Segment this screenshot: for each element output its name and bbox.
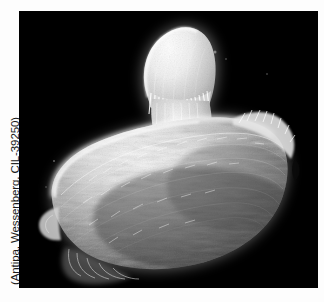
micrograph-plate: [19, 11, 318, 288]
figure-root: (Antipa, Wessenberg, CIL-39250): [0, 0, 324, 302]
sem-micrograph-image: [19, 11, 318, 288]
